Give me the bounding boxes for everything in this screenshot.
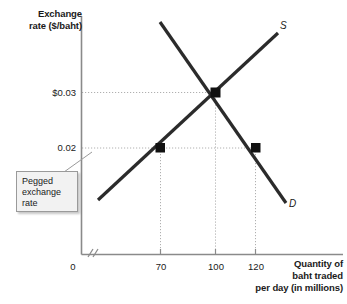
- marker-equilibrium: [211, 88, 221, 98]
- x-tick-label-70: 70: [144, 261, 178, 272]
- supply-curve: [98, 33, 278, 200]
- x-tick-label-0: 0: [56, 261, 90, 272]
- x-tick-label-100: 100: [199, 261, 233, 272]
- y-tick-label-002: 0.02: [20, 142, 76, 153]
- callout-leader-line: [64, 152, 92, 172]
- demand-curve: [160, 22, 286, 203]
- exchange-rate-supply-demand-chart: Exchange rate ($/baht) Quantity of baht …: [0, 0, 347, 304]
- supply-curve-label: S: [280, 20, 287, 31]
- pegged-exchange-rate-callout: Pegged exchange rate: [16, 171, 78, 212]
- marker-quantity-supplied: [156, 143, 166, 153]
- x-tick-label-120: 120: [239, 261, 273, 272]
- grid-guides: [82, 93, 256, 255]
- y-axis-title: Exchange rate ($/baht): [6, 8, 82, 32]
- marker-quantity-demanded: [251, 143, 261, 153]
- x-axis-ticks: [161, 249, 256, 255]
- y-tick-label-003: $0.03: [20, 87, 76, 98]
- demand-curve-label: D: [289, 198, 296, 209]
- axis-break-icon: [88, 249, 98, 257]
- pegged-exchange-rate-callout-text: Pegged exchange rate: [22, 176, 77, 209]
- axes: [82, 16, 344, 257]
